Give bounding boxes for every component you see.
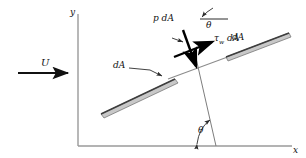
pressure-label-leader xyxy=(172,38,183,42)
freestream-velocity-label: U xyxy=(41,58,49,68)
figure-container: y x U p dA τw dA dA dA θ θ xyxy=(0,0,306,158)
da-left-label: dA xyxy=(113,61,125,70)
diagram-canvas xyxy=(0,0,306,158)
plate-left-segment xyxy=(101,79,178,118)
pressure-force-label: p dA xyxy=(153,14,174,23)
plate-surface-line xyxy=(168,55,233,79)
da-left-leader xyxy=(129,68,162,76)
x-axis-label: x xyxy=(293,146,298,155)
theta-top-reference xyxy=(200,8,228,19)
y-axis-label: y xyxy=(70,8,75,17)
theta-bottom-label: θ xyxy=(198,126,203,135)
shear-subscript: w xyxy=(219,38,224,45)
theta-top-label: θ xyxy=(206,21,211,30)
da-right-label: dA xyxy=(232,33,244,42)
